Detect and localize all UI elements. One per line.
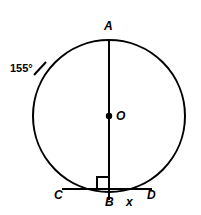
point-label-a: A [104,20,113,32]
circle-geometry-figure: A O C B D x 155° [0,0,201,215]
point-label-b: B [105,196,114,208]
point-label-c: C [54,189,63,201]
segment-length-label-x: x [126,196,133,208]
point-label-d: D [147,189,156,201]
right-angle-marker [97,177,109,189]
geometry-canvas [0,0,201,215]
center-point-dot [106,113,112,119]
arc-tick-mark [34,62,46,75]
point-label-o: O [116,110,125,122]
arc-angle-label: 155° [10,63,33,74]
